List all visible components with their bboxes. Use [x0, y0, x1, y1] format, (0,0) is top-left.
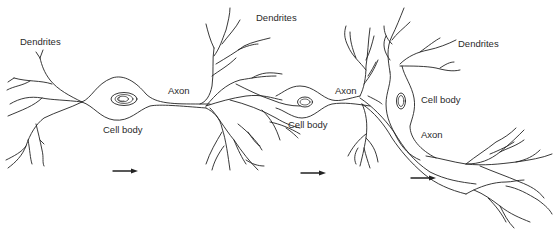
arrow-1: [113, 169, 138, 174]
arrow-2: [301, 171, 326, 176]
neuron-3-nucleus: [397, 93, 406, 109]
neuron-1-axon-terminals: [200, 8, 300, 170]
label-axon-2: Axon: [335, 86, 357, 96]
label-dendrites-2: Dendrites: [256, 13, 297, 23]
neuron-2-axon-terminals: [345, 26, 378, 168]
label-axon-3: Axon: [421, 130, 443, 140]
label-cell-body-2: Cell body: [288, 120, 328, 130]
label-cell-body-1: Cell body: [103, 125, 143, 135]
label-dendrites-1: Dendrites: [20, 37, 61, 47]
label-dendrites-3: Dendrites: [458, 39, 499, 49]
neuron-2-nucleus: [298, 97, 313, 107]
neuron-1-cell-body: [82, 77, 210, 120]
neuron-3: [360, 8, 552, 228]
neuron-1-dendrites: [6, 50, 82, 168]
neuron-1: [6, 8, 300, 170]
neuron-3-dendrites: [384, 8, 460, 72]
label-axon-1: Axon: [168, 86, 190, 96]
neuron-drawing: [0, 0, 556, 234]
neuron-2: [270, 26, 378, 168]
neuron-diagram: Dendrites Axon Cell body Dendrites Axon …: [0, 0, 556, 234]
neuron-3-cell-body: [386, 66, 436, 160]
neuron-1-nucleus: [111, 93, 137, 106]
label-cell-body-3: Cell body: [421, 95, 461, 105]
